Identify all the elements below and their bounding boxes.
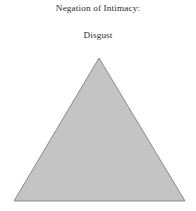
triangle-diagram: [0, 0, 196, 211]
triangle-icon: [14, 58, 185, 201]
figure-canvas: Negation of Intimacy: Disgust: [0, 0, 196, 211]
triangle-svg: [0, 0, 196, 211]
